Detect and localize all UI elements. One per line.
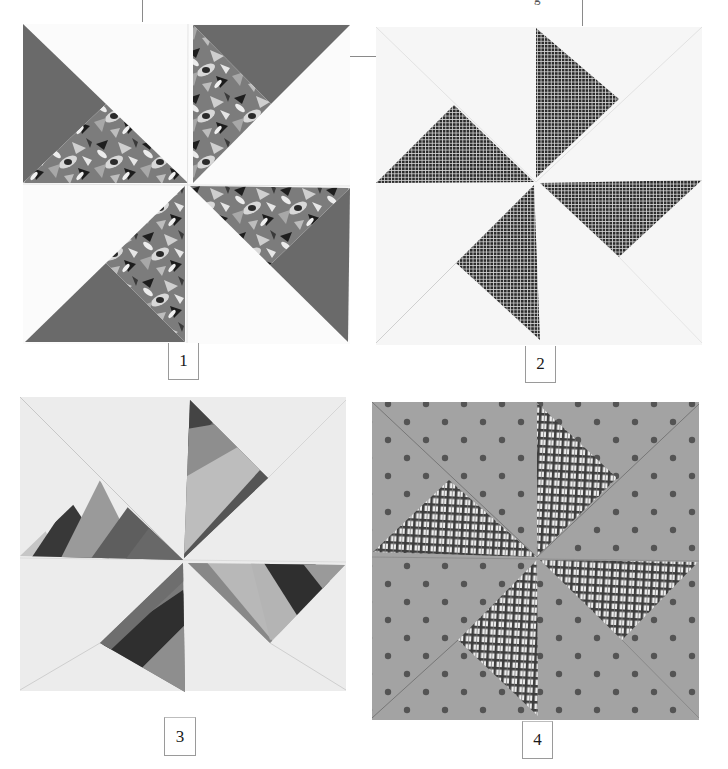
quilt-block-1 [0, 0, 364, 350]
quilt-block-2 [364, 0, 728, 350]
block-label-1: 1 [168, 343, 199, 380]
block-label-3: 3 [164, 717, 196, 756]
quilt-block-3 [0, 390, 364, 720]
block-label-4: 4 [522, 721, 553, 759]
quilt-block-4 [364, 390, 728, 730]
block-label-2: 2 [525, 346, 556, 383]
